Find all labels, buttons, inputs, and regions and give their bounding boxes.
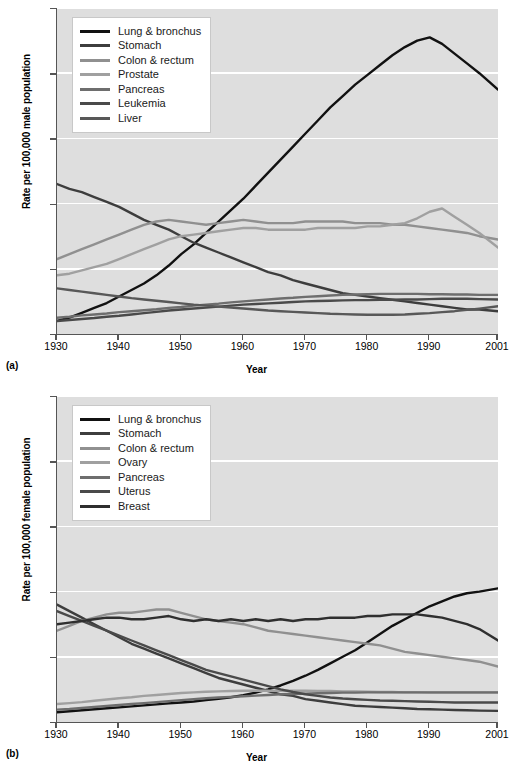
x-tick-label-1940: 1940 xyxy=(88,340,148,352)
y-tick-mark-60 xyxy=(50,526,56,527)
x-tick-label-1980: 1980 xyxy=(337,340,397,352)
x-tick-label-1970: 1970 xyxy=(274,340,334,352)
legend-label: Liver xyxy=(118,113,142,124)
legend-label: Lung & bronchus xyxy=(118,26,201,37)
legend-swatch-icon xyxy=(80,59,110,62)
panel-tag-a: (a) xyxy=(6,360,18,371)
x-tick-label-2001: 2001 xyxy=(467,728,513,740)
legend-swatch-icon xyxy=(80,102,110,105)
y-axis-label-b: Rate per 100,000 female population xyxy=(21,390,32,650)
legend-item-a-0: Lung & bronchus xyxy=(80,24,201,39)
x-tick-mark-1940 xyxy=(117,722,118,728)
legend-label: Colon & rectum xyxy=(118,55,194,66)
x-tick-label-1980: 1980 xyxy=(337,728,397,740)
series-line-a-3 xyxy=(57,208,498,275)
legend-swatch-icon xyxy=(80,447,110,450)
legend-label: Stomach xyxy=(118,40,161,51)
x-tick-mark-1970 xyxy=(304,334,305,340)
legend-swatch-icon xyxy=(80,117,110,120)
x-tick-label-1950: 1950 xyxy=(150,728,210,740)
x-tick-mark-1960 xyxy=(242,334,243,340)
y-tick-mark-20 xyxy=(50,657,56,658)
y-tick-mark-40 xyxy=(50,592,56,593)
legend-label: Lung & bronchus xyxy=(118,414,201,425)
legend-item-a-1: Stomach xyxy=(80,39,201,54)
x-tick-mark-1970 xyxy=(304,722,305,728)
x-tick-mark-1950 xyxy=(180,334,181,340)
legend-label: Pancreas xyxy=(118,472,164,483)
legend-swatch-icon xyxy=(80,73,110,76)
legend-label: Leukemia xyxy=(118,98,166,109)
x-tick-label-1960: 1960 xyxy=(212,340,272,352)
y-tick-mark-80 xyxy=(50,73,56,74)
legend-label: Ovary xyxy=(118,457,147,468)
legend-item-a-2: Colon & rectum xyxy=(80,53,201,68)
x-tick-mark-1960 xyxy=(242,722,243,728)
panel-b: Rate per 100,000 female population Year … xyxy=(0,388,513,776)
legend-swatch-icon xyxy=(80,505,110,508)
series-line-a-2 xyxy=(57,220,498,259)
x-tick-label-1960: 1960 xyxy=(212,728,272,740)
x-tick-label-1990: 1990 xyxy=(399,340,459,352)
series-line-a-1 xyxy=(57,184,498,311)
x-tick-mark-2001 xyxy=(496,722,497,728)
legend-item-a-4: Pancreas xyxy=(80,82,201,97)
panel-a: Rate per 100,000 male population Year (a… xyxy=(0,0,513,388)
legend-label: Breast xyxy=(118,501,150,512)
legend-item-b-3: Ovary xyxy=(80,456,201,471)
x-tick-mark-1950 xyxy=(180,722,181,728)
x-tick-mark-1990 xyxy=(428,334,429,340)
y-axis-label-a: Rate per 100,000 male population xyxy=(21,2,32,262)
legend-item-a-5: Leukemia xyxy=(80,97,201,112)
legend-swatch-icon xyxy=(80,88,110,91)
x-tick-mark-1940 xyxy=(117,334,118,340)
series-line-b-5 xyxy=(57,611,498,702)
x-tick-mark-1930 xyxy=(55,334,56,340)
legend-swatch-icon xyxy=(80,461,110,464)
x-tick-label-1950: 1950 xyxy=(150,340,210,352)
legend-label: Prostate xyxy=(118,69,159,80)
x-axis-label-b: Year xyxy=(0,752,513,763)
legend-item-b-2: Colon & rectum xyxy=(80,441,201,456)
legend-b: Lung & bronchusStomachColon & rectumOvar… xyxy=(72,405,211,521)
figure-cancer-death-rates: Rate per 100,000 male population Year (a… xyxy=(0,0,513,776)
y-tick-mark-100 xyxy=(50,396,56,397)
x-tick-label-1970: 1970 xyxy=(274,728,334,740)
x-axis-label-a: Year xyxy=(0,364,513,375)
legend-swatch-icon xyxy=(80,44,110,47)
legend-swatch-icon xyxy=(80,418,110,421)
legend-swatch-icon xyxy=(80,30,110,33)
legend-label: Uterus xyxy=(118,486,150,497)
legend-a: Lung & bronchusStomachColon & rectumPros… xyxy=(72,17,211,133)
x-tick-label-1930: 1930 xyxy=(26,340,86,352)
x-tick-label-1930: 1930 xyxy=(26,728,86,740)
legend-item-a-3: Prostate xyxy=(80,68,201,83)
y-tick-mark-20 xyxy=(50,269,56,270)
y-tick-mark-40 xyxy=(50,204,56,205)
x-tick-label-1990: 1990 xyxy=(399,728,459,740)
y-tick-mark-60 xyxy=(50,138,56,139)
legend-swatch-icon xyxy=(80,490,110,493)
legend-item-b-1: Stomach xyxy=(80,427,201,442)
panel-tag-b: (b) xyxy=(6,748,19,759)
legend-label: Stomach xyxy=(118,428,161,439)
x-tick-label-2001: 2001 xyxy=(467,340,513,352)
x-tick-mark-2001 xyxy=(496,334,497,340)
legend-swatch-icon xyxy=(80,476,110,479)
legend-item-b-4: Pancreas xyxy=(80,470,201,485)
x-tick-label-1940: 1940 xyxy=(88,728,148,740)
legend-label: Pancreas xyxy=(118,84,164,95)
legend-label: Colon & rectum xyxy=(118,443,194,454)
x-tick-mark-1990 xyxy=(428,722,429,728)
legend-item-b-0: Lung & bronchus xyxy=(80,412,201,427)
y-tick-mark-100 xyxy=(50,8,56,9)
y-tick-mark-80 xyxy=(50,461,56,462)
x-tick-mark-1980 xyxy=(366,334,367,340)
legend-swatch-icon xyxy=(80,432,110,435)
x-tick-mark-1980 xyxy=(366,722,367,728)
x-tick-mark-1930 xyxy=(55,722,56,728)
legend-item-b-5: Uterus xyxy=(80,485,201,500)
legend-item-b-6: Breast xyxy=(80,499,201,514)
legend-item-a-6: Liver xyxy=(80,111,201,126)
